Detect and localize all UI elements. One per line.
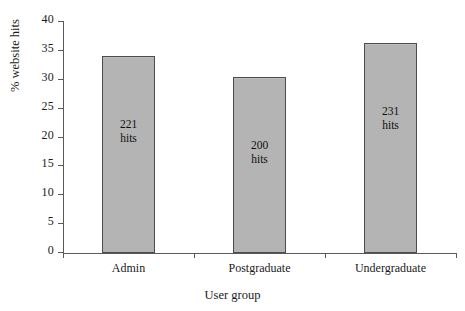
bar-value-unit: hits [365, 118, 416, 132]
y-tick-label: 0 [48, 244, 54, 256]
y-tick-mark [58, 165, 63, 166]
y-axis-line [63, 21, 64, 254]
bar: 200hits [233, 77, 286, 253]
bar-value-count: 200 [234, 138, 285, 152]
y-tick-label: 25 [42, 100, 54, 112]
bar-value-count: 221 [103, 117, 154, 131]
y-axis-title: % website hits [8, 72, 23, 92]
y-tick-label: 40 [42, 13, 54, 25]
x-tick-mark [456, 253, 457, 258]
y-tick-mark [58, 108, 63, 109]
y-tick-mark [58, 137, 63, 138]
y-tick-label: 15 [42, 157, 54, 169]
y-tick-label: 20 [42, 129, 54, 141]
bar-value-label: 231hits [365, 104, 416, 132]
y-tick-mark [58, 223, 63, 224]
bar: 221hits [102, 56, 155, 253]
bar-value-count: 231 [365, 104, 416, 118]
bar-value-label: 200hits [234, 138, 285, 166]
bar-value-unit: hits [234, 152, 285, 166]
x-tick-mark [325, 253, 326, 258]
x-tick-label: Postgraduate [194, 261, 325, 275]
x-tick-mark [63, 253, 64, 258]
bar-chart: % website hits 0510152025303540 221hits2… [0, 0, 465, 311]
y-tick-mark [58, 79, 63, 80]
x-tick-mark [194, 253, 195, 258]
bar: 231hits [364, 43, 417, 253]
y-tick-label: 5 [48, 215, 54, 227]
bar-value-label: 221hits [103, 117, 154, 145]
y-tick-mark [58, 194, 63, 195]
x-axis-title: User group [0, 288, 465, 303]
bar-value-unit: hits [103, 131, 154, 145]
x-axis-line [63, 253, 456, 254]
x-tick-label: Undergraduate [325, 261, 456, 275]
y-tick-label: 35 [42, 42, 54, 54]
x-tick-label: Admin [63, 261, 194, 275]
y-tick-label: 30 [42, 71, 54, 83]
y-tick-mark [58, 21, 63, 22]
y-tick-mark [58, 50, 63, 51]
y-tick-label: 10 [42, 186, 54, 198]
